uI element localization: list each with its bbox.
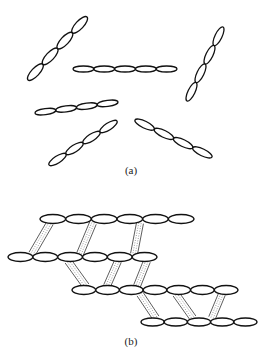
chain-segment-ellipse xyxy=(135,66,156,72)
chain-segment-ellipse xyxy=(141,318,164,326)
crosslink-rung xyxy=(77,222,96,256)
chain-segment-ellipse xyxy=(167,286,191,295)
crosslink-rung xyxy=(104,260,121,288)
chain-segment-ellipse xyxy=(234,318,257,326)
crosslink-rung xyxy=(209,293,225,320)
layer-row-2 xyxy=(8,253,157,262)
chain-segment-ellipse xyxy=(214,286,238,295)
chain-segment-ellipse xyxy=(187,318,210,326)
chain-segment-ellipse xyxy=(47,151,68,168)
panel-b-linked-layers xyxy=(8,215,257,327)
chain-segment-ellipse xyxy=(33,253,58,262)
chain-segment-ellipse xyxy=(81,129,102,146)
chain-lower-left-horizontal xyxy=(35,99,119,116)
chain-segment-ellipse xyxy=(202,44,217,66)
chain-segment-ellipse xyxy=(66,215,92,224)
chain-segment-ellipse xyxy=(143,286,167,295)
chain-segment-ellipse xyxy=(91,215,117,224)
crosslink-rung xyxy=(173,292,196,320)
chain-lower-left-diagonal xyxy=(47,118,119,168)
crosslink-rung xyxy=(137,292,159,320)
crosslink-rung xyxy=(134,260,150,288)
chain-segment-ellipse xyxy=(69,14,90,35)
chain-segment-ellipse xyxy=(96,286,120,295)
layer-row-3 xyxy=(72,286,238,295)
panel-b-label: (b) xyxy=(125,336,138,347)
chain-middle-horizontal xyxy=(73,66,177,72)
chain-segment-ellipse xyxy=(211,318,234,326)
chain-segment-ellipse xyxy=(72,286,96,295)
layer-row-4 xyxy=(141,318,257,326)
chain-segment-ellipse xyxy=(107,253,132,262)
chain-segment-ellipse xyxy=(115,66,136,72)
chain-right-steep xyxy=(184,25,226,102)
chain-segment-ellipse xyxy=(83,253,108,262)
chain-segment-ellipse xyxy=(172,135,194,151)
chain-segment-ellipse xyxy=(191,145,213,161)
panel-a-random-chains xyxy=(25,14,226,168)
crosslink-rung xyxy=(29,221,53,256)
chain-segment-ellipse xyxy=(98,118,119,135)
chain-segment-ellipse xyxy=(73,66,94,72)
chain-segment-ellipse xyxy=(143,215,169,224)
chain-segment-ellipse xyxy=(8,253,33,262)
chain-segment-ellipse xyxy=(211,25,226,47)
chain-segment-ellipse xyxy=(168,215,194,224)
chain-segment-ellipse xyxy=(119,286,143,295)
chain-segment-ellipse xyxy=(117,215,143,224)
chain-segment-ellipse xyxy=(76,102,98,111)
chain-segment-ellipse xyxy=(184,81,199,103)
chain-segment-ellipse xyxy=(153,126,175,142)
crosslink-rungs xyxy=(29,221,225,320)
chain-segment-ellipse xyxy=(94,66,115,72)
chain-lower-right-diagonal xyxy=(133,117,213,160)
chain-segment-ellipse xyxy=(193,62,208,84)
chain-segment-ellipse xyxy=(191,286,215,295)
chain-segment-ellipse xyxy=(55,105,77,114)
chain-segment-ellipse xyxy=(35,107,57,116)
crosslink-rung xyxy=(131,222,144,254)
chain-segment-ellipse xyxy=(97,99,119,108)
chain-segment-ellipse xyxy=(164,318,187,326)
chain-segment-ellipse xyxy=(156,66,177,72)
chain-segment-ellipse xyxy=(133,117,155,133)
chain-segment-ellipse xyxy=(58,253,83,262)
chain-segment-ellipse xyxy=(64,140,85,157)
chain-segment-ellipse xyxy=(40,215,66,224)
layer-row-1 xyxy=(40,215,194,224)
panel-a-label: (a) xyxy=(125,165,137,176)
chain-segment-ellipse xyxy=(132,253,157,262)
crosslink-rung xyxy=(65,259,89,288)
